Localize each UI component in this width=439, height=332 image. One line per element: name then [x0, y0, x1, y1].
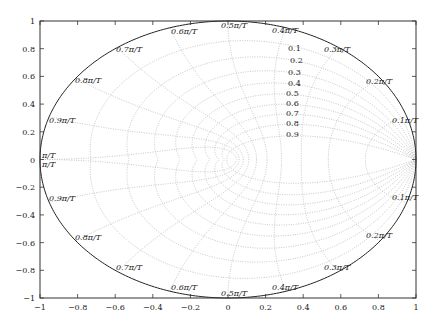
damping-contour-lower — [176, 160, 416, 237]
y-tick-label: 0.2 — [22, 128, 35, 137]
y-tick-label: −0.8 — [16, 266, 35, 275]
frequency-label-lower: 0.4π/T — [272, 283, 299, 292]
x-tick-label: −0.8 — [68, 303, 87, 312]
axes-frame — [40, 21, 416, 298]
frequency-contour-lower — [118, 160, 249, 272]
frequency-contour-lower — [301, 160, 338, 272]
frequency-label-upper: 0.2π/T — [366, 77, 393, 86]
y-tick-label: 0.4 — [22, 100, 35, 109]
frequency-label-upper: 0.9π/T — [49, 116, 76, 125]
y-tick-labels: 10.80.60.40.20−0.2−0.4−0.6−0.8−1 — [16, 17, 35, 303]
x-tick-label: −1 — [34, 303, 46, 312]
y-tick-label: −0.2 — [16, 183, 35, 192]
x-tick-label: −0.2 — [181, 303, 200, 312]
frequency-label-lower: 0.5π/T — [221, 289, 248, 298]
damping-contour-upper — [222, 124, 416, 159]
frequency-label-upper: π/T — [41, 151, 56, 160]
damping-contour-lower — [192, 160, 416, 226]
y-tick-label: 0 — [30, 156, 35, 165]
damping-label: 0.4 — [288, 79, 301, 88]
y-tick-label: 1 — [30, 17, 35, 26]
y-tick-label: 0.8 — [22, 45, 35, 54]
frequency-label-lower: π/T — [41, 160, 56, 169]
x-tick-label: 1 — [413, 303, 418, 312]
unit-circle — [40, 21, 416, 298]
x-tick-label: 0.2 — [259, 303, 272, 312]
damping-contour-upper — [192, 94, 416, 160]
x-tick-label: 0.6 — [334, 303, 347, 312]
frequency-label-lower: 0.7π/T — [116, 263, 143, 272]
y-tick-label: −0.4 — [16, 211, 35, 220]
x-tick-label: 0 — [225, 303, 230, 312]
damping-label: 0.2 — [290, 56, 303, 65]
frequency-contour-lower — [40, 160, 236, 172]
x-tick-label: 0.4 — [297, 303, 310, 312]
damping-ratio-labels: 0.10.20.30.40.50.60.70.80.9 — [286, 44, 303, 139]
frequency-label-lower: 0.3π/T — [324, 263, 351, 272]
frequency-label-lower: 0.1π/T — [392, 193, 419, 202]
frequency-contour-lower — [274, 160, 286, 292]
damping-contour-upper — [127, 57, 416, 160]
y-tick-label: −0.6 — [16, 239, 35, 248]
frequency-contour-lower — [49, 160, 239, 203]
frequency-contour-lower — [76, 160, 243, 241]
damping-contour-lower — [222, 160, 416, 195]
frequency-label-lower: 0.6π/T — [171, 283, 198, 292]
frequency-label-upper: 0.3π/T — [324, 45, 351, 54]
damping-contour-lower — [90, 160, 416, 279]
damping-label: 0.1 — [288, 44, 301, 53]
y-tick-label: 0.6 — [22, 72, 35, 81]
frequency-contour-upper — [118, 47, 249, 159]
frequency-contour-upper — [274, 28, 286, 160]
frequency-contour-upper — [76, 78, 243, 159]
x-tick-label: −0.6 — [105, 303, 124, 312]
damping-label: 0.5 — [286, 89, 299, 98]
frequency-label-lower: 0.9π/T — [49, 194, 76, 203]
x-tick-label: −0.4 — [143, 303, 162, 312]
zgrid-chart: −1−0.8−0.6−0.4−0.200.20.40.60.81 10.80.6… — [0, 0, 439, 332]
frequency-label-upper: 0.6π/T — [171, 27, 198, 36]
x-tick-label: 0.8 — [372, 303, 385, 312]
frequency-label-upper: 0.5π/T — [221, 21, 248, 30]
damping-contour-lower — [227, 160, 416, 184]
x-tick-labels: −1−0.8−0.6−0.4−0.200.20.40.60.81 — [34, 303, 418, 312]
frequency-label-upper: 0.4π/T — [272, 26, 299, 35]
damping-label: 0.9 — [286, 130, 299, 139]
frequency-label-upper: 0.7π/T — [116, 45, 143, 54]
frequency-contour-upper — [40, 147, 236, 159]
frequency-contour-lower — [228, 160, 267, 299]
natural-frequency-contours — [40, 21, 407, 298]
damping-label: 0.7 — [286, 109, 299, 118]
damping-label: 0.8 — [286, 119, 299, 128]
frequency-label-upper: 0.8π/T — [75, 76, 102, 85]
damping-contour-upper — [227, 136, 416, 160]
frequency-contour-upper — [228, 21, 267, 160]
damping-contour-upper — [205, 104, 416, 159]
frequency-contour-lower — [170, 160, 257, 292]
axis-ticks — [40, 21, 416, 298]
frequency-contour-upper — [301, 47, 338, 159]
damping-contour-upper — [90, 41, 416, 160]
y-tick-label: −1 — [23, 294, 35, 303]
damping-label: 0.6 — [286, 99, 299, 108]
damping-contour-lower — [205, 160, 416, 215]
frequency-label-upper: 0.1π/T — [392, 116, 419, 125]
damping-label: 0.3 — [288, 68, 301, 77]
frequency-label-lower: 0.8π/T — [75, 233, 102, 242]
damping-contour-lower — [127, 160, 416, 263]
frequency-contour-upper — [170, 28, 257, 160]
frequency-contour-upper — [49, 117, 239, 160]
frequency-label-lower: 0.2π/T — [366, 231, 393, 240]
